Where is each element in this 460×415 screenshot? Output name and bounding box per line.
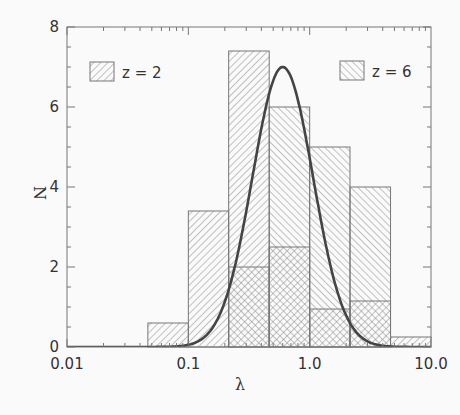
y-tick-label: 6 [49,98,59,116]
legend-swatch-z2 [90,62,114,81]
legend-label-z2: z = 2 [122,64,162,82]
y-tick-label: 2 [49,258,59,276]
legend-z2: z = 2 [90,62,162,82]
histogram-bar [148,323,188,347]
histogram-bar [310,309,350,347]
x-axis-label: λ [235,375,245,394]
y-tick-label: 4 [49,178,59,196]
x-tick-label: 0.01 [50,355,83,373]
y-axis-label: N [30,186,49,200]
histogram-bar [188,211,228,347]
histogram-bar [350,301,391,347]
y-tick-label: 8 [49,18,59,36]
histogram-chart: 0.010.11.010.002468 λ N z = 2 z = 6 [0,0,460,415]
x-tick-label: 10.0 [414,355,447,373]
legend-z6: z = 6 [340,61,412,81]
x-tick-label: 1.0 [298,355,322,373]
legend-label-z6: z = 6 [372,63,412,81]
legend-swatch-z6 [340,61,364,80]
histogram-bar [269,247,309,347]
y-tick-label: 0 [49,338,59,356]
x-tick-label: 0.1 [176,355,200,373]
